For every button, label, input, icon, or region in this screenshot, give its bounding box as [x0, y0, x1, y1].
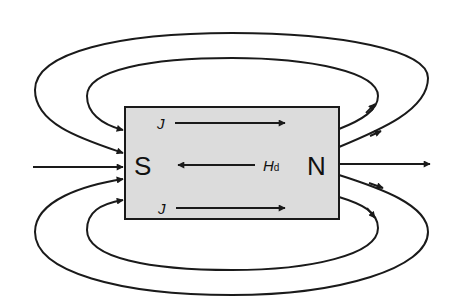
magnet-diagram: S N J J Hd [0, 0, 458, 300]
j-top-label: J [157, 116, 165, 131]
field-lines-svg [0, 0, 458, 300]
hd-label: Hd [263, 158, 279, 173]
hd-main: H [263, 157, 274, 174]
hd-subscript: d [274, 162, 280, 173]
north-pole-label: N [307, 153, 326, 179]
j-bottom-label: J [158, 201, 166, 216]
south-pole-label: S [134, 153, 151, 179]
